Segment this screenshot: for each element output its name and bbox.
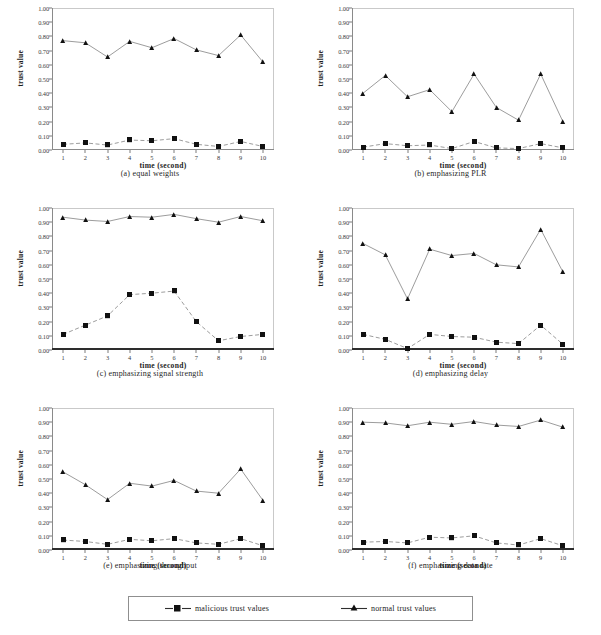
triangle-marker-icon (560, 119, 565, 124)
square-marker-icon (83, 140, 88, 145)
triangle-marker-icon (449, 422, 454, 427)
subplot-c: trust value1.000.900.800.700.600.500.400… (0, 200, 300, 400)
triangle-marker-icon (538, 71, 543, 76)
x-tick-mark (385, 550, 386, 553)
x-tick-label: 8 (517, 554, 520, 561)
x-tick-label: 8 (517, 154, 520, 161)
x-tick-label: 7 (195, 554, 198, 561)
series-line-normal (63, 469, 263, 500)
x-tick-label: 1 (61, 554, 64, 561)
x-tick-mark (63, 150, 64, 153)
triangle-marker-icon (383, 420, 388, 425)
square-marker-icon (127, 537, 132, 542)
x-tick-mark (174, 350, 175, 353)
y-axis-label: trust value (16, 450, 30, 487)
x-tick-mark (107, 150, 108, 153)
square-marker-icon (472, 533, 477, 538)
x-tick-mark (407, 550, 408, 553)
x-tick-label: 6 (472, 154, 475, 161)
square-marker-icon (194, 540, 199, 545)
legend-entry-normal: normal trust values (341, 604, 436, 613)
triangle-marker-icon (171, 212, 176, 217)
square-marker-icon (149, 138, 154, 143)
x-tick-mark (129, 150, 130, 153)
series-line-malicious (363, 325, 563, 348)
x-tick-label: 8 (217, 554, 220, 561)
x-tick-label: 4 (428, 154, 431, 161)
x-tick-mark (540, 350, 541, 353)
x-tick-mark (218, 150, 219, 153)
square-marker-icon (172, 136, 177, 141)
x-tick-label: 9 (239, 354, 242, 361)
triangle-marker-icon (360, 241, 365, 246)
triangle-marker-icon (383, 252, 388, 257)
x-tick-mark (107, 550, 108, 553)
triangle-marker-icon (471, 251, 476, 256)
x-tick-label: 8 (217, 354, 220, 361)
legend-label-malicious: malicious trust values (195, 604, 269, 613)
triangle-marker-icon (405, 423, 410, 428)
series-layer (52, 408, 274, 550)
square-marker-icon (427, 332, 432, 337)
x-tick-label: 3 (106, 554, 109, 561)
square-marker-icon (361, 332, 366, 337)
triangle-marker-icon (360, 91, 365, 96)
x-tick-mark (363, 550, 364, 553)
triangle-marker-icon (238, 214, 243, 219)
x-tick-label: 6 (172, 154, 175, 161)
x-tick-mark (129, 350, 130, 353)
x-tick-label: 10 (560, 354, 566, 361)
triangle-marker-icon (260, 59, 265, 64)
square-marker-icon (405, 346, 410, 351)
square-marker-icon (238, 536, 243, 541)
x-tick-mark (174, 150, 175, 153)
x-tick-label: 5 (450, 154, 453, 161)
square-marker-icon (61, 332, 66, 337)
square-marker-icon (383, 141, 388, 146)
x-tick-label: 7 (495, 354, 498, 361)
x-tick-mark (107, 350, 108, 353)
subplot-caption-c: (c) emphasizing signal strength (0, 369, 300, 378)
square-marker-icon (260, 332, 265, 337)
x-tick-label: 5 (450, 554, 453, 561)
series-line-malicious (63, 139, 263, 147)
x-tick-mark (85, 150, 86, 153)
triangle-marker-icon (341, 604, 367, 613)
x-tick-label: 2 (84, 554, 87, 561)
triangle-marker-icon (494, 422, 499, 427)
square-marker-icon (149, 538, 154, 543)
triangle-marker-icon (383, 73, 388, 78)
series-line-malicious (63, 539, 263, 546)
square-marker-icon (449, 334, 454, 339)
x-tick-mark (451, 350, 452, 353)
square-marker-icon (560, 543, 565, 548)
x-tick-label: 8 (217, 154, 220, 161)
triangle-marker-icon (60, 38, 65, 43)
square-marker-icon (61, 142, 66, 147)
square-marker-icon (516, 341, 521, 346)
triangle-marker-icon (560, 424, 565, 429)
x-tick-mark (196, 350, 197, 353)
square-marker-icon (83, 323, 88, 328)
square-marker-icon (361, 540, 366, 545)
square-marker-icon (405, 143, 410, 148)
subplot-b: trust value1.000.900.800.700.600.500.400… (300, 0, 601, 200)
square-marker-icon (494, 540, 499, 545)
square-marker-icon (472, 139, 477, 144)
square-marker-icon (449, 146, 454, 151)
triangle-marker-icon (216, 491, 221, 496)
x-tick-label: 1 (361, 554, 364, 561)
triangle-marker-icon (560, 269, 565, 274)
x-tick-label: 9 (239, 554, 242, 561)
triangle-marker-icon (449, 253, 454, 258)
triangle-marker-icon (149, 215, 154, 220)
x-tick-label: 10 (560, 154, 566, 161)
x-tick-label: 6 (472, 354, 475, 361)
square-marker-icon (472, 335, 477, 340)
subplot-d: trust value1.000.900.800.700.600.500.400… (300, 200, 601, 400)
x-tick-label: 2 (84, 354, 87, 361)
x-tick-label: 6 (472, 554, 475, 561)
y-axis-label: trust value (316, 250, 330, 287)
x-tick-mark (429, 150, 430, 153)
square-marker-icon (105, 142, 110, 147)
